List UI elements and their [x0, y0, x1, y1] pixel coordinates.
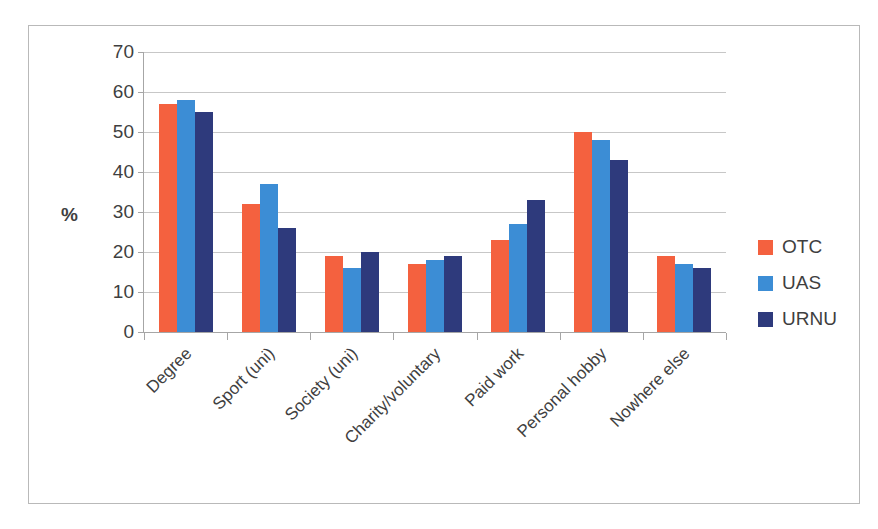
legend-swatch-icon: [758, 276, 773, 291]
bar[interactable]: [509, 224, 527, 332]
x-tick-mark: [310, 333, 311, 340]
x-tick-mark: [393, 333, 394, 340]
y-tick-mark: [138, 52, 144, 53]
bar[interactable]: [693, 268, 711, 332]
y-tick-label: 20: [113, 241, 134, 263]
x-category-label: Paid work: [461, 344, 528, 411]
bar[interactable]: [592, 140, 610, 332]
x-category-label: Degree: [142, 344, 196, 398]
y-tick-mark: [138, 212, 144, 213]
x-tick-mark: [477, 333, 478, 340]
bar-group: [574, 52, 628, 332]
y-tick-label: 0: [123, 321, 134, 343]
bar[interactable]: [343, 268, 361, 332]
bar[interactable]: [675, 264, 693, 332]
legend-item-uas[interactable]: UAS: [758, 265, 837, 301]
y-tick-label: 30: [113, 201, 134, 223]
y-tick-label: 70: [113, 41, 134, 63]
y-tick-label: 60: [113, 81, 134, 103]
bar[interactable]: [527, 200, 545, 332]
bar-group: [491, 52, 545, 332]
x-tick-mark: [144, 333, 145, 340]
bar[interactable]: [159, 104, 177, 332]
bar-group: [408, 52, 462, 332]
x-category-label: Society (uni): [281, 344, 362, 425]
legend-swatch-icon: [758, 312, 773, 327]
bar-group: [657, 52, 711, 332]
bar[interactable]: [610, 160, 628, 332]
legend-swatch-icon: [758, 240, 773, 255]
legend-label: UAS: [782, 272, 821, 294]
bar[interactable]: [444, 256, 462, 332]
x-category-label-text: Paid work: [461, 344, 528, 411]
y-tick-mark: [138, 252, 144, 253]
y-tick-label: 40: [113, 161, 134, 183]
bar[interactable]: [177, 100, 195, 332]
bar[interactable]: [242, 204, 260, 332]
x-tick-mark: [643, 333, 644, 340]
plot-area: 010203040506070 DegreeSport (uni)Society…: [144, 52, 726, 332]
x-category-label: Nowhere else: [607, 344, 695, 432]
y-tick-mark: [138, 172, 144, 173]
chart-frame: % 010203040506070 DegreeSport (uni)Socie…: [28, 25, 860, 504]
legend-label: OTC: [782, 236, 822, 258]
x-axis-line: [143, 332, 726, 333]
x-category-label: Sport (uni): [209, 344, 279, 414]
bar-group: [242, 52, 296, 332]
x-category-label-text: Personal hobby: [514, 344, 612, 442]
x-category-label-text: Sport (uni): [209, 344, 279, 414]
legend-item-urnu[interactable]: URNU: [758, 301, 837, 337]
bar-group: [159, 52, 213, 332]
x-category-label-text: Degree: [142, 344, 196, 398]
y-axis-line: [143, 52, 144, 333]
x-tick-mark: [560, 333, 561, 340]
y-tick-mark: [138, 132, 144, 133]
bar[interactable]: [657, 256, 675, 332]
legend-label: URNU: [782, 308, 837, 330]
chart-legend: OTCUASURNU: [758, 229, 837, 337]
bar[interactable]: [195, 112, 213, 332]
x-category-label: Personal hobby: [514, 344, 612, 442]
y-tick-label: 50: [113, 121, 134, 143]
bar[interactable]: [361, 252, 379, 332]
y-axis-label: %: [61, 204, 78, 226]
x-tick-mark: [726, 333, 727, 340]
bar[interactable]: [574, 132, 592, 332]
y-tick-mark: [138, 92, 144, 93]
bar-group: [325, 52, 379, 332]
x-category-label-text: Nowhere else: [607, 344, 695, 432]
y-tick-mark: [138, 292, 144, 293]
y-tick-label: 10: [113, 281, 134, 303]
legend-item-otc[interactable]: OTC: [758, 229, 837, 265]
bar[interactable]: [278, 228, 296, 332]
bar[interactable]: [426, 260, 444, 332]
bar[interactable]: [260, 184, 278, 332]
bar[interactable]: [325, 256, 343, 332]
bar[interactable]: [408, 264, 426, 332]
x-tick-mark: [227, 333, 228, 340]
bar[interactable]: [491, 240, 509, 332]
x-category-label-text: Society (uni): [281, 344, 362, 425]
